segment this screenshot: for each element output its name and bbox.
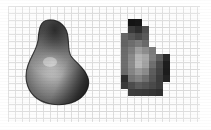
pixel-cell <box>156 82 163 89</box>
pixel-cell <box>142 75 149 82</box>
pixel-cell <box>142 61 149 68</box>
pixel-cell <box>128 89 135 96</box>
pixel-cell <box>142 82 149 89</box>
pixel-cell <box>135 19 142 26</box>
pixel-cell <box>156 75 163 82</box>
pixel-cell <box>135 89 142 96</box>
pixel-cell <box>128 40 135 47</box>
pixel-cell <box>149 61 156 68</box>
pixel-cell <box>135 33 142 40</box>
pixel-cell <box>135 75 142 82</box>
pixel-cell <box>142 26 149 33</box>
smooth-shaded-blob <box>22 18 92 106</box>
figure-container <box>0 0 211 130</box>
pixel-cell <box>121 54 128 61</box>
pixel-cell <box>135 47 142 54</box>
pixel-cell <box>135 54 142 61</box>
pixel-cell <box>149 89 156 96</box>
quantized-pixel-blob <box>121 19 183 103</box>
pixel-cell <box>135 82 142 89</box>
pixel-cell <box>156 68 163 75</box>
pixel-cell <box>121 33 128 40</box>
pixel-cell <box>163 75 170 82</box>
pixel-cell <box>156 89 163 96</box>
pixel-cell <box>142 33 149 40</box>
pixel-cell <box>156 61 163 68</box>
pixel-cell <box>142 47 149 54</box>
pixel-cell <box>121 82 128 89</box>
pixel-cell <box>128 61 135 68</box>
pixel-cell <box>121 68 128 75</box>
pixel-cell <box>128 19 135 26</box>
pixel-cell <box>149 47 156 54</box>
pixel-cell <box>149 82 156 89</box>
pixel-cell <box>128 26 135 33</box>
pixel-cell <box>156 54 163 61</box>
pixel-cell <box>128 68 135 75</box>
pixel-cell <box>163 68 170 75</box>
pixel-cell <box>121 40 128 47</box>
pixel-cell <box>128 75 135 82</box>
pixel-cell <box>128 47 135 54</box>
pixel-cell <box>163 54 170 61</box>
pixel-cell <box>163 61 170 68</box>
pixel-cell <box>128 82 135 89</box>
pixel-cell <box>142 40 149 47</box>
pixel-cell <box>135 26 142 33</box>
pixel-cell <box>142 54 149 61</box>
pixel-cell <box>142 68 149 75</box>
pixel-cell <box>135 68 142 75</box>
pixel-cell <box>142 89 149 96</box>
pixel-cell <box>149 68 156 75</box>
pixel-cell <box>128 33 135 40</box>
pixel-cell <box>135 40 142 47</box>
pixel-cell <box>121 75 128 82</box>
pixel-cell <box>149 54 156 61</box>
pixel-cell <box>121 47 128 54</box>
pixel-cell <box>135 61 142 68</box>
pixel-cell <box>149 75 156 82</box>
pixel-cell <box>128 54 135 61</box>
pixel-cell <box>121 61 128 68</box>
